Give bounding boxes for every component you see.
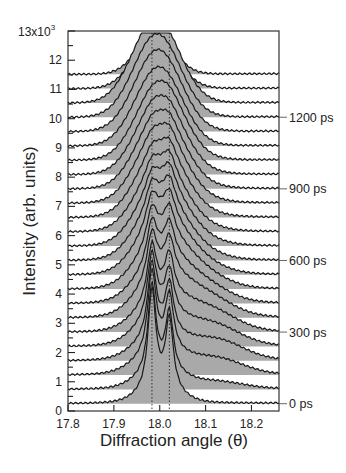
y-tick-label: 8	[55, 170, 62, 184]
y-scale-label: 13x103	[18, 23, 56, 39]
y-tick-label: 2	[55, 346, 62, 360]
x-tick-label: 18.1	[194, 417, 218, 431]
time-delay-label: 900 ps	[289, 182, 327, 196]
y-tick-label: 12	[49, 53, 63, 67]
time-delay-label: 600 ps	[289, 254, 327, 268]
y-tick-label: 11	[50, 82, 63, 96]
x-axis-ticks: 17.817.918.018.118.2	[56, 405, 263, 431]
y-tick-label: 4	[55, 287, 62, 301]
y-axis-ticks: 0123456789101112	[49, 31, 75, 418]
time-delay-labels: 0 ps300 ps600 ps900 ps1200 ps	[279, 111, 333, 411]
y-tick-label: 1	[55, 375, 62, 389]
y-tick-label: 6	[55, 229, 62, 243]
time-delay-label: 300 ps	[289, 326, 327, 340]
y-tick-label: 7	[55, 199, 62, 213]
y-tick-label: 10	[49, 112, 63, 126]
x-tick-label: 18.0	[148, 417, 172, 431]
y-tick-label: 5	[55, 258, 62, 272]
time-delay-label: 1200 ps	[289, 111, 333, 125]
diffraction-waterfall-chart: 17.817.918.018.118.2 0123456789101112 0 …	[0, 0, 346, 473]
x-tick-label: 18.2	[240, 417, 264, 431]
y-tick-label: 3	[55, 316, 62, 330]
y-tick-label: 0	[55, 404, 62, 418]
time-delay-label: 0 ps	[289, 397, 313, 411]
profile-curves	[68, 33, 279, 404]
x-tick-label: 17.9	[102, 417, 126, 431]
x-tick-label: 17.8	[56, 417, 80, 431]
x-axis-title: Diffraction angle (θ)	[100, 431, 248, 450]
y-axis-title: Intensity (arb. units)	[20, 146, 39, 295]
y-tick-label: 9	[55, 141, 62, 155]
